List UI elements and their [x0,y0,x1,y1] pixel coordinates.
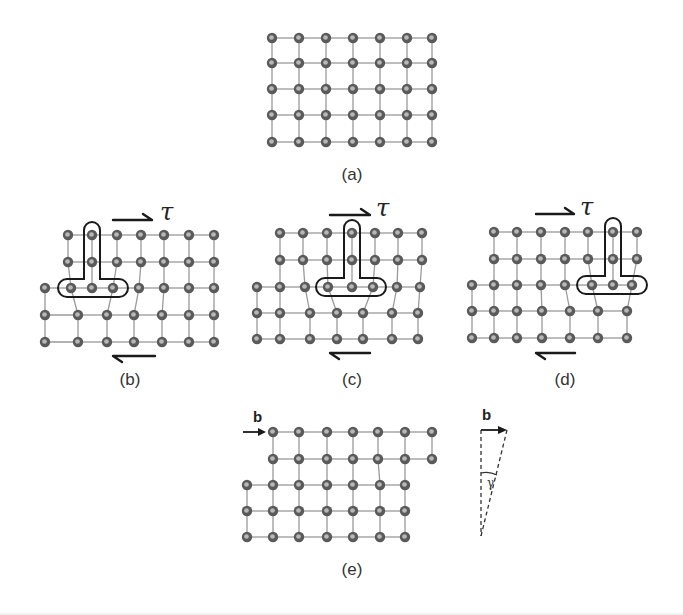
atom [348,110,358,120]
atom-core [75,339,80,344]
atom [322,454,332,464]
atom [393,228,403,238]
atom [537,333,547,343]
atom-core [539,308,544,313]
atom-core [75,312,80,317]
atom [267,137,277,147]
panel-d: τ(d) [467,193,647,389]
atom [275,334,285,344]
atom-core [161,232,166,237]
atom-core [629,282,634,287]
atom-core [104,312,109,317]
triangle-b-label: b [482,406,491,423]
atom [305,334,315,344]
atom [489,306,499,316]
atom-core [469,335,474,340]
atom-core [538,282,543,287]
atom [348,33,358,43]
atom-core [402,482,407,487]
atom [136,230,146,240]
atom-core [269,112,274,117]
atom-core [595,335,600,340]
atom [242,506,252,516]
atom [417,255,427,265]
atom [267,84,277,94]
atom [375,110,385,120]
atom-core [186,232,191,237]
atom-core [324,508,329,513]
atom-core [350,456,355,461]
atom-core [429,112,434,117]
atom [87,283,97,293]
atom [268,480,278,490]
atom [370,228,380,238]
shear-stress-symbol: τ [160,198,174,226]
atom [298,228,308,238]
atom-core [404,86,409,91]
atom-core [377,112,382,117]
atom [321,58,331,68]
atom [400,480,410,490]
atom [305,308,315,318]
atom [294,532,304,542]
atom-core [377,86,382,91]
atom-core [211,339,216,344]
atom [375,84,385,94]
atom [322,532,332,542]
atom [209,283,219,293]
atom [73,337,83,347]
atom [489,280,499,290]
atom-core [323,139,328,144]
atom [348,480,358,490]
atom-core [136,285,141,290]
atom [66,283,76,293]
atom [537,306,547,316]
atom-core [377,139,382,144]
atom-core [634,229,639,234]
atom-core [110,285,115,290]
atom-core [562,229,567,234]
atom [358,334,368,344]
atom-core [324,456,329,461]
atom [348,506,358,516]
atom [348,454,358,464]
atom-core [300,230,305,235]
atom [402,110,412,120]
atom [427,427,437,437]
atom-core [186,285,191,290]
atom-core [114,259,119,264]
atom-core [159,312,164,317]
atom-core [404,139,409,144]
atom [275,228,285,238]
atom [400,454,410,464]
atom [321,84,331,94]
atom-core [370,284,375,289]
atom-core [395,257,400,262]
atom-core [138,232,143,237]
atom-core [585,229,590,234]
atom [184,310,194,320]
atom [129,310,139,320]
atom-core [562,256,567,261]
atom [159,283,169,293]
atom [322,427,332,437]
atom-core [429,429,434,434]
atom-core [349,230,354,235]
atom [622,333,632,343]
atom [294,84,304,94]
atom-core [349,257,354,262]
atom-core [377,534,382,539]
atom-core [469,308,474,313]
atom [370,255,380,265]
atom-core [244,534,249,539]
atom [294,110,304,120]
atom [209,337,219,347]
panel-e: b(e) [242,408,437,579]
atom-core [254,310,259,315]
atom-core [491,308,496,313]
atom-core [324,230,329,235]
atom [413,334,423,344]
atom-core [377,35,382,40]
atom [348,137,358,147]
atom [512,280,522,290]
